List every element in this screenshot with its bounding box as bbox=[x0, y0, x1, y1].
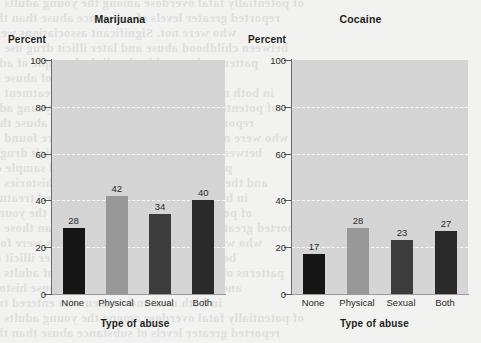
x-category-label: Sexual bbox=[138, 297, 181, 308]
y-axis-line-marijuana bbox=[51, 59, 52, 295]
chart-title-marijuana: Marijuana bbox=[0, 13, 240, 25]
y-tick-label: 0 bbox=[41, 289, 46, 300]
bar: 23 bbox=[391, 240, 413, 294]
gridline bbox=[292, 107, 468, 108]
y-tick-label: 40 bbox=[275, 195, 286, 206]
plot-area-marijuana: 28423440 bbox=[52, 60, 225, 294]
y-tick-label: 40 bbox=[35, 195, 46, 206]
x-category-label: None bbox=[291, 297, 335, 308]
x-axis-label-cocaine: Type of abuse bbox=[240, 318, 481, 329]
x-category-label: Both bbox=[423, 297, 467, 308]
bar: 27 bbox=[435, 231, 457, 294]
y-tick-label: 80 bbox=[275, 101, 286, 112]
bar: 34 bbox=[149, 214, 171, 294]
x-category-label: Physical bbox=[94, 297, 137, 308]
bar-value-label: 27 bbox=[435, 218, 457, 229]
bar: 42 bbox=[106, 196, 128, 294]
bar: 28 bbox=[63, 228, 85, 294]
x-category-label: None bbox=[51, 297, 94, 308]
bar-value-label: 28 bbox=[63, 215, 85, 226]
figure: Marijuana Percent 28423440 020406080100 … bbox=[0, 0, 481, 343]
gridline bbox=[292, 200, 468, 201]
plot-area-cocaine: 17282327 bbox=[292, 60, 468, 294]
bar-value-label: 28 bbox=[347, 215, 369, 226]
y-axis-label-marijuana: Percent bbox=[8, 34, 46, 45]
chart-title-cocaine: Cocaine bbox=[240, 13, 481, 25]
chart-panel-cocaine: Cocaine Percent 17282327 020406080100 No… bbox=[240, 0, 481, 343]
y-tick-label: 100 bbox=[270, 55, 286, 66]
bar: 17 bbox=[303, 254, 325, 294]
bar-value-label: 23 bbox=[391, 227, 413, 238]
bar-value-label: 34 bbox=[149, 201, 171, 212]
x-axis-line-marijuana bbox=[51, 294, 226, 295]
x-axis-label-marijuana: Type of abuse bbox=[0, 318, 240, 329]
gridline bbox=[292, 154, 468, 155]
x-category-label: Both bbox=[181, 297, 224, 308]
y-axis-line-cocaine bbox=[291, 59, 292, 295]
bar-value-label: 40 bbox=[192, 187, 214, 198]
gridline bbox=[52, 154, 225, 155]
y-tick-label: 20 bbox=[35, 242, 46, 253]
chart-panel-marijuana: Marijuana Percent 28423440 020406080100 … bbox=[0, 0, 240, 343]
bar-value-label: 17 bbox=[303, 241, 325, 252]
y-tick-label: 60 bbox=[275, 148, 286, 159]
x-axis-line-cocaine bbox=[291, 294, 469, 295]
gridline bbox=[52, 107, 225, 108]
bar: 40 bbox=[192, 200, 214, 294]
y-tick-label: 80 bbox=[35, 101, 46, 112]
y-axis-label-cocaine: Percent bbox=[248, 34, 286, 45]
bar: 28 bbox=[347, 228, 369, 294]
y-tick-label: 100 bbox=[30, 55, 46, 66]
x-category-label: Sexual bbox=[379, 297, 423, 308]
y-tick-label: 20 bbox=[275, 242, 286, 253]
y-tick-label: 0 bbox=[281, 289, 286, 300]
y-tick-label: 60 bbox=[35, 148, 46, 159]
bar-value-label: 42 bbox=[106, 183, 128, 194]
x-category-label: Physical bbox=[335, 297, 379, 308]
